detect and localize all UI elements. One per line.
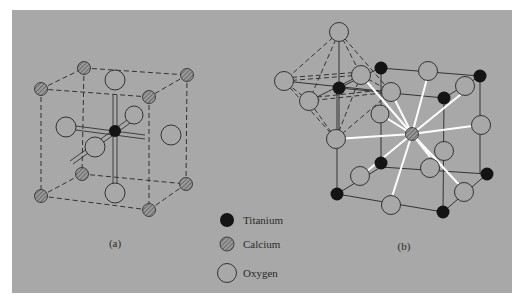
calcium-atom xyxy=(76,168,89,181)
legend-label-titanium: Titanium xyxy=(243,214,283,226)
perovskite-figure: (a) xyxy=(0,0,527,307)
oxygen-atom xyxy=(105,183,125,203)
titanium-atom xyxy=(331,188,344,201)
calcium-atom xyxy=(35,190,48,203)
oxygen-atom xyxy=(456,77,475,96)
calcium-atom xyxy=(143,204,156,217)
oxygen-atom xyxy=(382,196,401,215)
legend-item-oxygen: Oxygen xyxy=(218,264,279,283)
calcium-atom xyxy=(180,178,193,191)
legend: Titanium Calcium Oxygen xyxy=(218,213,284,283)
oxygen-atoms-b xyxy=(275,23,491,215)
titanium-atom xyxy=(333,82,346,95)
oxygen-legend-icon xyxy=(218,264,237,283)
oxygen-atom xyxy=(327,130,346,149)
oxygen-atom xyxy=(105,70,125,90)
oxygen-atom xyxy=(161,125,181,145)
oxygen-atom xyxy=(382,83,401,102)
oxygen-atom xyxy=(435,142,454,161)
titanium-atom xyxy=(375,157,388,170)
legend-item-titanium: Titanium xyxy=(220,213,283,227)
oxygen-atom xyxy=(472,116,491,135)
calcium-atom xyxy=(406,128,419,141)
oxygen-atom xyxy=(419,62,438,81)
titanium-legend-icon xyxy=(220,213,234,227)
oxygen-atoms-a xyxy=(56,70,181,203)
panel-a-label: (a) xyxy=(109,237,122,250)
titanium-atom xyxy=(474,70,487,83)
oxygen-atom xyxy=(300,92,319,111)
titanium-atom xyxy=(481,168,494,181)
oxygen-atom xyxy=(56,117,76,137)
oxygen-atom xyxy=(85,137,105,157)
calcium-legend-icon xyxy=(220,237,234,251)
unit-cell-b xyxy=(275,23,494,219)
titanium-atom xyxy=(437,206,450,219)
legend-label-oxygen: Oxygen xyxy=(243,267,278,279)
oxygen-atom xyxy=(455,183,474,202)
legend-label-calcium: Calcium xyxy=(243,238,281,250)
oxygen-atom xyxy=(371,105,389,123)
oxygen-atom xyxy=(275,72,294,91)
titanium-atom xyxy=(375,62,388,75)
calcium-atom xyxy=(78,62,91,75)
oxygen-atom xyxy=(421,159,440,178)
cube-edges-b xyxy=(284,32,487,212)
oxygen-atom xyxy=(330,23,349,42)
titanium-atom xyxy=(438,92,451,105)
oxygen-atom xyxy=(352,66,371,85)
oxygen-atom xyxy=(125,106,143,124)
titanium-atom xyxy=(109,125,121,137)
calcium-atom xyxy=(35,83,48,96)
calcium-atom xyxy=(181,69,194,82)
legend-item-calcium: Calcium xyxy=(220,237,281,251)
oxygen-atom xyxy=(351,167,370,186)
calcium-atom xyxy=(143,91,156,104)
panel-b-label: (b) xyxy=(398,240,411,253)
unit-cell-a xyxy=(35,62,194,217)
